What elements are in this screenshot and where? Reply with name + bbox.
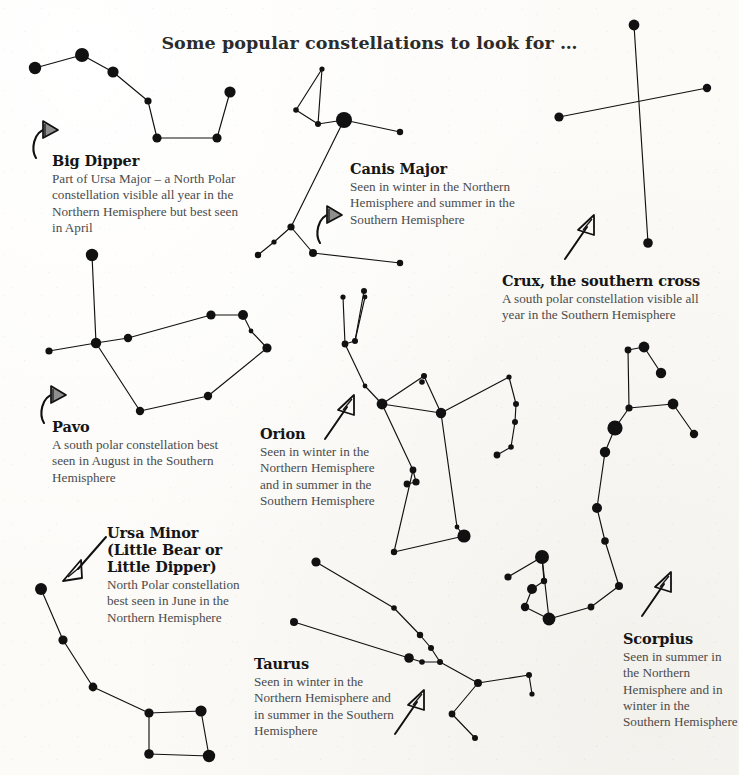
star-link [49,343,96,351]
star [271,239,276,244]
star [494,452,501,459]
star-link [140,396,208,411]
star [195,705,206,716]
star [506,374,511,379]
star-link [149,711,201,713]
star-link [673,404,694,434]
star [212,133,221,142]
star [391,549,397,555]
star [529,691,534,696]
constellation-description: Part of Ursa Major – a North Polar const… [52,171,247,236]
star [75,48,89,62]
star [592,503,602,513]
star-link [394,470,413,552]
star [543,613,556,626]
label-taurus: TaurusSeen in winter in the Northern Hem… [254,655,394,739]
star [421,373,427,379]
star [690,430,698,438]
star [391,605,397,611]
star-link [344,120,400,132]
star [629,20,640,31]
constellation-description: Seen in summer in the Northern Hemispher… [623,649,739,730]
star [377,399,388,410]
star [58,635,67,644]
star [508,444,514,450]
star [615,582,623,590]
star [35,583,47,595]
star [504,573,511,580]
star [703,84,711,92]
star [152,133,161,142]
label-crux: Crux, the southern crossA south polar co… [502,272,722,324]
star [29,62,41,74]
star [340,294,345,299]
star [588,604,595,611]
constellation-big-dipper [29,48,236,158]
star [91,338,101,348]
star [526,672,532,678]
star-link [96,343,140,411]
star-link [382,376,424,404]
star [249,329,254,334]
constellation-name: Pavo [52,418,237,435]
star-link [296,110,318,124]
pointer-arrow-icon [63,537,106,581]
constellation-name: Ursa Minor (Little Bear or Little Dipper… [107,524,247,575]
star [535,550,549,564]
star [144,749,154,759]
star-link [345,344,365,386]
star [512,419,518,425]
star [417,632,423,638]
star [457,529,470,542]
star [144,708,153,717]
star-link [629,404,673,408]
star [521,603,529,611]
star-link [452,714,475,738]
star [404,481,411,488]
label-scorpius: ScorpiusSeen in summer in the Northern H… [623,630,739,730]
star [625,404,632,411]
star-link [440,662,478,683]
star [639,342,650,353]
star [311,557,320,566]
star-link [208,348,267,396]
constellation-name: Canis Major [350,160,526,177]
star [527,584,537,594]
star [404,653,414,663]
star [472,735,478,741]
star-link [509,377,516,404]
star [656,368,666,378]
star-link [441,413,457,527]
star [607,420,622,435]
star-link [41,589,63,640]
star [204,392,212,400]
star [513,401,519,407]
star-link [452,683,478,714]
star [262,343,271,352]
star-link [634,25,648,243]
pointer-arrow-icon [317,206,342,243]
star-link [113,72,148,101]
star [287,223,294,230]
star-link [549,607,591,619]
star-link [591,586,619,607]
label-big-dipper: Big DipperPart of Ursa Major – a North P… [52,152,247,236]
star-link [63,640,93,687]
star [601,537,609,545]
constellation-pavo [41,249,271,423]
star [643,238,653,248]
star [342,341,349,348]
star-link [382,404,441,413]
star-link [424,376,441,413]
star-link [149,754,209,756]
star-link [92,255,96,343]
star-link [296,69,322,110]
star [419,379,425,385]
star-link [478,675,529,683]
star [206,310,215,319]
star [293,107,299,113]
poster-page: Some popular constellations to look for … [0,0,739,775]
star [455,525,460,530]
label-ursa-minor: Ursa Minor (Little Bear or Little Dipper… [107,524,247,626]
pointer-arrow-icon [395,690,424,734]
